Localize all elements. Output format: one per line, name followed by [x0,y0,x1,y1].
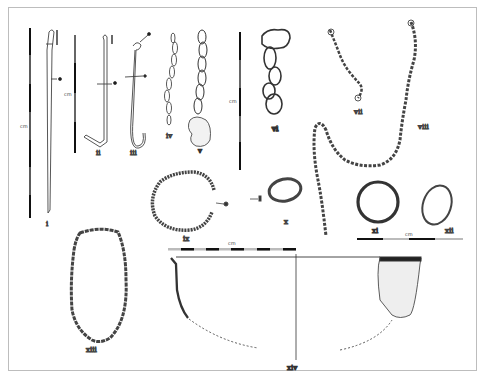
scale-1-label: cm [20,123,28,129]
object-iv-chain: iv [165,33,178,140]
object-viii-chain: viii [314,20,429,236]
label-xii: xii [445,227,454,235]
object-x-ring: x [250,176,303,226]
label-xiv: xiv [287,364,297,372]
object-xiv-vessel: xiv [171,254,421,372]
label-xi: xi [372,227,379,235]
scale-bar-2: cm [64,35,76,153]
label-x: x [284,218,288,226]
object-xi-ring: xi [358,182,398,235]
object-xii-ring: xii [418,182,457,235]
object-vii-chain: vii [328,29,363,116]
label-iii: iii [130,149,137,157]
object-v-chain: v [188,30,210,155]
label-ii: ii [96,149,101,157]
label-xiii: xiii [86,346,97,354]
scale-4-label: cm [405,231,413,237]
object-iii-hook: iii [125,33,151,158]
illustration-canvas: cm i cm ii iii [0,0,481,375]
label-iv: iv [166,132,172,140]
label-v: v [197,147,202,155]
label-i: i [46,220,49,228]
scale-5-label: cm [228,240,236,246]
object-vi-chain-links: vi [262,30,290,133]
label-ix: ix [183,235,189,243]
object-i-pin: i [46,30,62,228]
scale-bar-1: cm [20,28,31,218]
scale-2-label: cm [64,91,72,97]
object-xiii-loop: xiii [71,229,126,354]
label-vi: vi [271,125,279,133]
label-viii: viii [417,123,429,131]
object-ii-hook: ii [84,35,117,157]
scale-bar-3: cm [229,32,241,170]
label-vii: vii [353,108,363,116]
scale-3-label: cm [229,98,237,104]
object-ix-ring: ix [152,172,228,243]
